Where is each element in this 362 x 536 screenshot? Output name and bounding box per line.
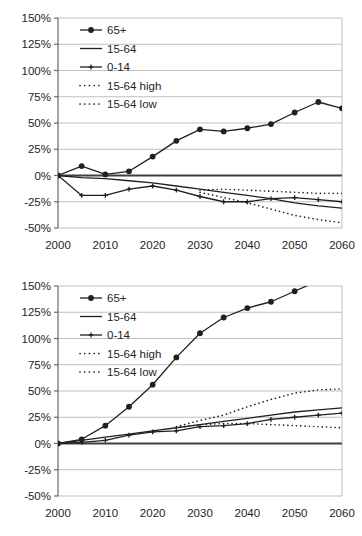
x-tick-label: 2030 [187, 507, 213, 519]
legend-label: 65+ [107, 24, 127, 36]
legend-label: 15-64 high [107, 80, 161, 92]
legend-label: 0-14 [107, 61, 131, 73]
y-axis: 150%125%100%75%50%25%0%-25%-50% [22, 12, 58, 234]
x-tick-label: 2060 [329, 507, 355, 519]
data-point [126, 404, 132, 410]
y-tick-label: 75% [28, 91, 51, 103]
data-point [292, 110, 298, 116]
data-point [339, 105, 345, 111]
x-axis: 2000201020202030204020502060 [45, 507, 355, 519]
chart-svg: 150%125%100%75%50%25%0%-25%-50%200020102… [0, 268, 362, 536]
data-point [173, 138, 179, 144]
data-point [315, 99, 321, 105]
legend-label: 15-64 high [107, 348, 161, 360]
legend-label: 0-14 [107, 329, 131, 341]
chart-svg: 150%125%100%75%50%25%0%-25%-50%200020102… [0, 0, 362, 268]
data-point [173, 355, 179, 361]
legend-marker-circle [88, 295, 94, 301]
legend-label: 15-64 low [107, 98, 158, 110]
legend-label: 15-64 [107, 311, 137, 323]
data-point [292, 288, 298, 294]
data-point [268, 121, 274, 127]
y-tick-label: 0% [34, 438, 51, 450]
data-point [197, 330, 203, 336]
x-tick-label: 2000 [45, 507, 71, 519]
y-tick-label: -25% [24, 196, 51, 208]
x-tick-label: 2030 [187, 239, 213, 251]
y-axis: 150%125%100%75%50%25%0%-25%-50% [22, 280, 58, 502]
data-point [339, 268, 345, 272]
chart-panel-top: 150%125%100%75%50%25%0%-25%-50%200020102… [0, 0, 362, 268]
data-point [150, 382, 156, 388]
y-tick-label: 125% [22, 38, 51, 50]
y-tick-label: 100% [22, 333, 51, 345]
data-point [244, 125, 250, 131]
y-tick-label: -50% [24, 222, 51, 234]
y-tick-label: -25% [24, 464, 51, 476]
y-tick-label: 150% [22, 280, 51, 292]
x-tick-label: 2060 [329, 239, 355, 251]
y-tick-label: 150% [22, 12, 51, 24]
plot-area-top: 150%125%100%75%50%25%0%-25%-50%200020102… [0, 0, 362, 268]
y-tick-label: 50% [28, 117, 51, 129]
data-point [221, 315, 227, 321]
y-tick-label: 100% [22, 65, 51, 77]
data-point [315, 278, 321, 284]
data-point [102, 172, 108, 178]
y-tick-label: 50% [28, 385, 51, 397]
legend-marker-circle [88, 27, 94, 33]
data-point [197, 126, 203, 132]
x-tick-label: 2010 [93, 239, 119, 251]
x-tick-label: 2040 [235, 507, 261, 519]
y-tick-label: 125% [22, 306, 51, 318]
data-point [244, 305, 250, 311]
x-tick-label: 2020 [140, 239, 166, 251]
x-tick-label: 2050 [282, 507, 308, 519]
x-tick-label: 2020 [140, 507, 166, 519]
data-point [150, 154, 156, 160]
data-point [268, 299, 274, 305]
data-point [221, 129, 227, 135]
data-point [126, 168, 132, 174]
figure-root: 150%125%100%75%50%25%0%-25%-50%200020102… [0, 0, 362, 536]
legend-label: 15-64 low [107, 366, 158, 378]
y-tick-label: 75% [28, 359, 51, 371]
x-tick-label: 2050 [282, 239, 308, 251]
x-axis: 2000201020202030204020502060 [45, 239, 355, 251]
legend-label: 65+ [107, 292, 127, 304]
legend-label: 15-64 [107, 43, 137, 55]
data-point [102, 423, 108, 429]
y-tick-label: 25% [28, 143, 51, 155]
x-tick-label: 2010 [93, 507, 119, 519]
y-tick-label: 25% [28, 411, 51, 423]
y-tick-label: 0% [34, 170, 51, 182]
chart-panel-bottom: 150%125%100%75%50%25%0%-25%-50%200020102… [0, 268, 362, 536]
plot-area-bottom: 150%125%100%75%50%25%0%-25%-50%200020102… [0, 268, 362, 536]
x-tick-label: 2040 [235, 239, 261, 251]
x-tick-label: 2000 [45, 239, 71, 251]
data-point [79, 163, 85, 169]
y-tick-label: -50% [24, 490, 51, 502]
